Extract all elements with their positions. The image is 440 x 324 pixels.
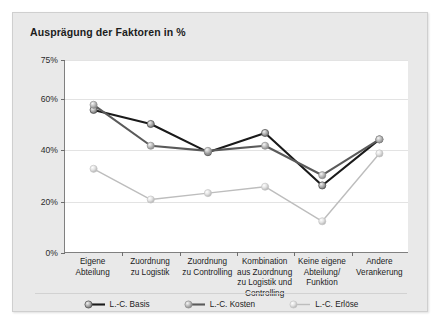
data-point-marker[interactable] bbox=[90, 101, 97, 108]
data-point-marker[interactable] bbox=[319, 172, 326, 179]
chart-legend: L.-C. BasisL.-C. KostenL.-C. Erlöse bbox=[35, 293, 407, 311]
x-axis-label: AndereVerankerung bbox=[348, 257, 410, 278]
plot-inner: 0%20%40%60%75% bbox=[65, 60, 408, 252]
data-point-marker[interactable] bbox=[376, 136, 383, 143]
legend-label: L.-C. Erlöse bbox=[315, 300, 358, 309]
x-tick-mark bbox=[294, 252, 295, 256]
x-axis-label: EigeneAbteilung bbox=[62, 257, 124, 278]
x-axis-label: Zuordnungzu Controlling bbox=[176, 257, 238, 278]
data-point-marker[interactable] bbox=[204, 147, 211, 154]
data-point-marker[interactable] bbox=[319, 218, 326, 225]
y-tick-mark bbox=[61, 253, 65, 254]
chart-title: Ausprägung der Faktoren in % bbox=[30, 26, 186, 38]
x-tick-mark bbox=[122, 252, 123, 256]
x-axis-label: Zuordnungzu Logistik bbox=[119, 257, 181, 278]
data-point-marker[interactable] bbox=[261, 142, 268, 149]
y-tick-label: 20% bbox=[41, 197, 58, 207]
series-line bbox=[94, 105, 380, 175]
legend-item[interactable]: L.-C. Kosten bbox=[184, 300, 256, 309]
data-point-marker[interactable] bbox=[204, 190, 211, 197]
data-point-marker[interactable] bbox=[319, 182, 326, 189]
x-tick-mark bbox=[352, 252, 353, 256]
legend-item[interactable]: L.-C. Erlöse bbox=[289, 300, 358, 309]
data-point-marker[interactable] bbox=[90, 165, 97, 172]
data-point-marker[interactable] bbox=[261, 129, 268, 136]
x-axis-label: Keine eigeneAbteilung/Funktion bbox=[291, 257, 353, 289]
legend-item[interactable]: L.-C. Basis bbox=[84, 300, 150, 309]
legend-marker-icon bbox=[184, 300, 206, 309]
y-tick-label: 75% bbox=[41, 55, 58, 65]
data-point-marker[interactable] bbox=[261, 183, 268, 190]
plot-area: 0%20%40%60%75% bbox=[64, 60, 408, 253]
y-tick-label: 0% bbox=[46, 248, 58, 258]
legend-marker-icon bbox=[84, 300, 106, 309]
series-layer bbox=[65, 60, 408, 252]
series-line bbox=[94, 153, 380, 221]
data-point-marker[interactable] bbox=[147, 142, 154, 149]
y-tick-label: 60% bbox=[41, 94, 58, 104]
legend-marker-icon bbox=[289, 300, 311, 309]
legend-label: L.-C. Basis bbox=[110, 300, 150, 309]
data-point-marker[interactable] bbox=[376, 150, 383, 157]
data-point-marker[interactable] bbox=[147, 196, 154, 203]
legend-label: L.-C. Kosten bbox=[210, 300, 256, 309]
y-tick-label: 40% bbox=[41, 145, 58, 155]
x-tick-mark bbox=[180, 252, 181, 256]
data-point-marker[interactable] bbox=[147, 120, 154, 127]
chart-figure: Ausprägung der Faktoren in % 0%20%40%60%… bbox=[12, 12, 428, 312]
x-tick-mark bbox=[237, 252, 238, 256]
